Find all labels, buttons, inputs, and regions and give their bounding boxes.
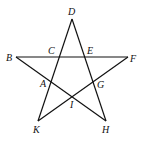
label-A: A	[39, 78, 47, 89]
label-F: F	[129, 53, 137, 64]
segment-DK	[38, 19, 72, 121]
label-H: H	[101, 124, 110, 135]
label-E: E	[86, 45, 93, 56]
segment-DH	[72, 19, 106, 121]
label-C: C	[48, 45, 55, 56]
label-K: K	[32, 124, 41, 135]
label-D: D	[67, 6, 76, 17]
segment-FK	[38, 57, 128, 121]
segment-BH	[16, 57, 106, 121]
pentagram-diagram: D B C E F A G I K H	[0, 0, 143, 144]
label-B: B	[6, 52, 12, 63]
label-G: G	[97, 79, 104, 90]
label-I: I	[69, 99, 74, 110]
